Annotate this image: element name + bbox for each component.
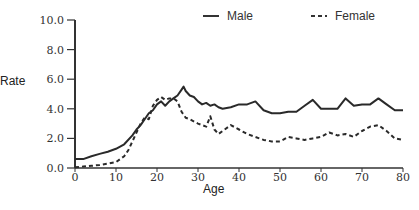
y-tick-label: 6.0	[47, 73, 65, 86]
x-tick-label: 80	[396, 171, 410, 184]
y-axis-label: Rate	[0, 74, 26, 88]
x-tick-label: 60	[314, 171, 328, 184]
y-tick-label: 8.0	[47, 44, 65, 57]
legend-female-label: Female	[335, 9, 375, 23]
y-tick-label: 4.0	[47, 103, 65, 116]
x-tick-label: 40	[232, 171, 246, 184]
x-axis-ticks: 01020304050607080	[72, 168, 411, 184]
series-male-line	[75, 87, 403, 160]
legend: Male Female	[203, 9, 375, 23]
x-tick-label: 70	[355, 171, 369, 184]
line-chart: 0.02.04.06.08.010.0 01020304050607080 Ra…	[0, 0, 419, 210]
y-tick-label: 10.0	[40, 14, 65, 27]
x-tick-label: 20	[150, 171, 164, 184]
series-female-line	[75, 97, 403, 167]
x-tick-label: 0	[72, 171, 79, 184]
y-tick-label: 0.0	[47, 162, 65, 175]
y-axis-ticks: 0.02.04.06.08.010.0	[40, 14, 76, 175]
x-axis-label: Age	[203, 182, 225, 196]
series-lines	[75, 87, 403, 168]
x-tick-label: 50	[273, 171, 287, 184]
legend-male-label: Male	[227, 9, 253, 23]
y-tick-label: 2.0	[47, 132, 65, 145]
x-tick-label: 10	[109, 171, 123, 184]
